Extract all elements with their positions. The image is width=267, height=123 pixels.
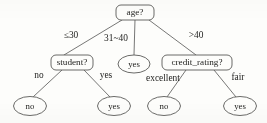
edge-label-credit-excellent: excellent — [146, 73, 180, 83]
node-student[interactable]: student? — [51, 55, 93, 70]
node-leaf-no-left-label: no — [26, 101, 35, 111]
edge-label-credit-fair: fair — [231, 72, 245, 82]
edge-root-to-mid-yes — [134, 20, 135, 55]
node-credit-rating[interactable]: credit_rating? — [162, 55, 232, 70]
node-leaf-no-right[interactable]: no — [148, 97, 181, 116]
edge-label-student-no: no — [34, 70, 44, 80]
node-credit-rating-label: credit_rating? — [171, 57, 222, 67]
node-leaf-no-right-label: no — [160, 101, 169, 111]
edge-label-age-le-30: ≤30 — [64, 30, 79, 40]
node-student-label: student? — [57, 57, 88, 67]
node-mid-yes-label: yes — [128, 59, 140, 69]
node-age-label: age? — [127, 7, 144, 17]
node-mid-yes[interactable]: yes — [118, 55, 150, 73]
node-leaf-no-left[interactable]: no — [14, 97, 47, 116]
edge-label-age-gt-40: >40 — [189, 30, 204, 40]
edge-label-student-yes: yes — [100, 70, 113, 80]
edge-label-age-31-40: 31~40 — [104, 33, 128, 43]
decision-tree-figure: age? student? yes credit_rating? no yes — [0, 0, 267, 123]
node-leaf-yes-left[interactable]: yes — [98, 97, 131, 116]
node-leaf-yes-right-label: yes — [234, 101, 246, 111]
node-leaf-yes-right[interactable]: yes — [224, 97, 257, 116]
decision-tree-canvas: age? student? yes credit_rating? no yes — [0, 0, 267, 123]
node-age[interactable]: age? — [116, 5, 154, 20]
node-leaf-yes-left-label: yes — [108, 101, 120, 111]
